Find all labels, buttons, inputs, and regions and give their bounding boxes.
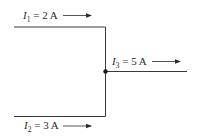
current-label-i3: I3 = 5 A (111, 55, 180, 70)
equals-sign: = (30, 9, 42, 21)
current-value: 3 A (43, 119, 59, 131)
current-value: 2 A (42, 9, 58, 21)
svg-text:I1 = 2 A: I1 = 2 A (22, 9, 58, 24)
junction-dot (103, 69, 107, 73)
equals-sign: = (31, 119, 43, 131)
circuit-diagram: I1 = 2 A I3 = 5 A I2 = 3 A (0, 0, 199, 138)
svg-text:I3 = 5 A: I3 = 5 A (111, 55, 147, 70)
current-value: 5 A (131, 55, 147, 67)
current-label-i1: I1 = 2 A (22, 9, 91, 24)
svg-text:I2 = 3 A: I2 = 3 A (23, 119, 59, 134)
equals-sign: = (119, 55, 131, 67)
current-label-i2: I2 = 3 A (23, 119, 91, 134)
